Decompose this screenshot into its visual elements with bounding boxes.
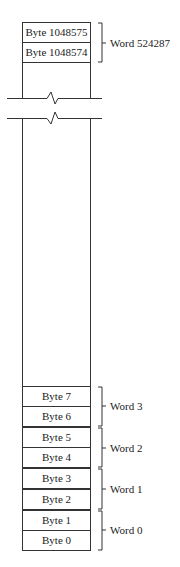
- diagram-lines: [0, 0, 180, 567]
- brace-word-3: [98, 387, 102, 426]
- word-label-3: Word 3: [110, 400, 142, 412]
- word-label-2: Word 2: [110, 442, 142, 454]
- break-line-upper: [7, 92, 102, 104]
- break-line-lower: [7, 112, 102, 124]
- brace-word-524287: [98, 23, 102, 62]
- word-label-524287: Word 524287: [110, 37, 170, 49]
- brace-word-1: [98, 469, 102, 509]
- brace-word-2: [98, 428, 102, 467]
- word-label-0: Word 0: [110, 524, 142, 536]
- brace-word-0: [98, 511, 102, 550]
- word-label-1: Word 1: [110, 483, 142, 495]
